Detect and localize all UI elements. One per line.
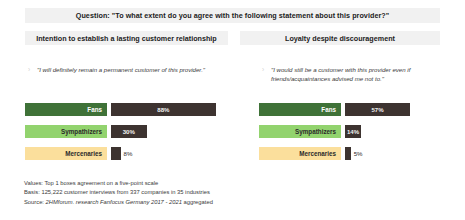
footnote-source-brand: 2HMforum. research	[46, 199, 100, 205]
segment-label-text: Sympathizers	[295, 128, 336, 135]
footnote-source-suffix: aggregated	[182, 199, 213, 205]
bar-value: 30%	[123, 128, 135, 135]
segment-label-fans: Fans	[259, 103, 341, 116]
footnote-values-text: Top 1 boxes agreement on a five-point sc…	[44, 180, 158, 186]
footnote-basis-text: 125,222 customer interviews from 337 com…	[41, 189, 210, 195]
bar-value: 57%	[371, 106, 383, 113]
column-header-left-text: Intention to establish a lasting custome…	[36, 34, 217, 43]
segment-label-text: Sympathizers	[61, 128, 102, 135]
slide-canvas: Question: "To what extent do you agree w…	[0, 0, 465, 220]
chart-panel-left: Fans 88% Sympathizers 30% Mercenaries	[25, 103, 230, 160]
footnote-basis-prefix: Basis:	[24, 189, 41, 195]
bar-value: 5%	[351, 147, 363, 160]
bar-track: 8%	[111, 147, 230, 160]
segment-label-mercenaries: Mercenaries	[259, 147, 341, 160]
segment-label-text: Fans	[87, 106, 102, 113]
chart-panel-right: Fans 57% Sympathizers 14% Mercenaries	[259, 103, 459, 160]
bar-track: 14%	[345, 125, 459, 138]
bar-fill	[111, 147, 121, 160]
question-banner: Question: "To what extent do you agree w…	[25, 8, 440, 23]
column-header-left: Intention to establish a lasting custome…	[25, 31, 228, 45]
bar-track: 88%	[111, 103, 230, 116]
bar-row: Sympathizers 14%	[259, 125, 459, 138]
column-header-right: Loyalty despite discouragement	[240, 31, 440, 45]
statement-left-text: "I will definitely remain a permanent cu…	[37, 66, 205, 75]
segment-label-mercenaries: Mercenaries	[25, 147, 107, 160]
segment-label-text: Mercenaries	[65, 150, 102, 157]
bar-value: 8%	[121, 147, 133, 160]
statement-left: › "I will definitely remain a permanent …	[28, 66, 228, 75]
segment-label-fans: Fans	[25, 103, 107, 116]
bar-fill: 88%	[111, 103, 216, 116]
bar-fill: 57%	[345, 103, 410, 116]
bar-fill: 14%	[345, 125, 361, 138]
bar-row: Mercenaries 5%	[259, 147, 459, 160]
footnote-source-study: Fanfocus Germany 2017 - 2021	[100, 199, 182, 205]
footnote-source: Source: 2HMforum. research Fanfocus Germ…	[24, 198, 354, 207]
chevron-right-icon: ›	[28, 66, 37, 74]
segment-label-sympathizers: Sympathizers	[25, 125, 107, 138]
footnotes: Values: Top 1 boxes agreement on a five-…	[24, 179, 354, 207]
bar-track: 57%	[345, 103, 459, 116]
chevron-right-icon: ›	[262, 66, 271, 74]
bar-track: 30%	[111, 125, 230, 138]
statement-right-text: "I would still be a customer with this p…	[271, 66, 458, 83]
footnote-source-prefix: Source:	[24, 199, 46, 205]
bar-row: Fans 57%	[259, 103, 459, 116]
footnote-basis: Basis: 125,222 customer interviews from …	[24, 188, 354, 197]
footnote-values: Values: Top 1 boxes agreement on a five-…	[24, 179, 354, 188]
bar-row: Fans 88%	[25, 103, 230, 116]
bar-value: 14%	[347, 128, 359, 135]
bar-row: Sympathizers 30%	[25, 125, 230, 138]
segment-label-text: Fans	[321, 106, 336, 113]
bar-track: 5%	[345, 147, 459, 160]
column-header-right-text: Loyalty despite discouragement	[285, 34, 395, 43]
bar-row: Mercenaries 8%	[25, 147, 230, 160]
question-text: Question: "To what extent do you agree w…	[76, 11, 389, 20]
bar-fill: 30%	[111, 125, 147, 138]
segment-label-sympathizers: Sympathizers	[259, 125, 341, 138]
footnote-values-prefix: Values:	[24, 180, 44, 186]
statement-right: › "I would still be a customer with this…	[262, 66, 458, 83]
segment-label-text: Mercenaries	[299, 150, 336, 157]
bar-value: 88%	[157, 106, 169, 113]
